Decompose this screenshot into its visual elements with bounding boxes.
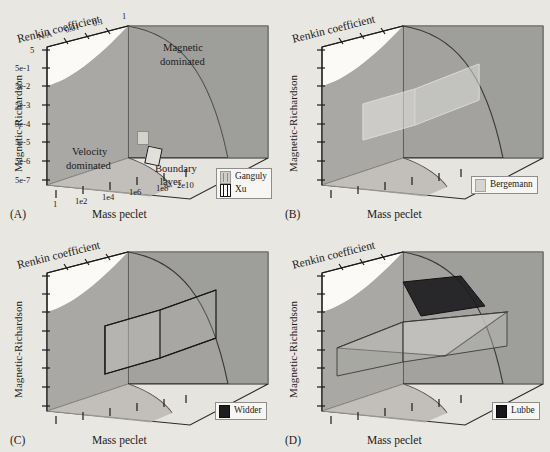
panel-a-x-axis-title: Mass peclet xyxy=(92,209,147,221)
panel-d-y-axis-title: Magnetic-Richardson xyxy=(288,301,299,398)
panel-a-annotation-magnetic-line2: dominated xyxy=(160,57,205,68)
panel-a-y-tick-4: 5e-4 xyxy=(15,120,30,129)
panel-a-annotation-magnetic-line1: Magnetic xyxy=(163,43,203,54)
panel-a-annotation-velocity-line1: Velocity xyxy=(72,147,107,158)
panel-d: Magnetic-Richardson Mass peclet Renkin c… xyxy=(275,226,550,452)
panel-a-y-tick-7: 5e-7 xyxy=(15,176,30,185)
legend-label-widder: Widder xyxy=(234,406,262,415)
panel-c-y-axis-title: Magnetic-Richardson xyxy=(13,301,24,398)
panel-a-y-tick-0: 5 xyxy=(30,46,34,55)
panel-b-letter: (B) xyxy=(285,209,300,221)
panel-b-y-axis-title: Magnetic-Richardson xyxy=(288,75,299,172)
legend-item-widder[interactable]: Widder xyxy=(219,405,262,417)
widder-swatch-icon xyxy=(219,405,230,418)
panel-a-x-tick-2: 1e4 xyxy=(102,193,114,202)
panel-a-annotation-boundary-line2: layer xyxy=(160,177,181,188)
legend-item-bergemann[interactable]: Bergemann xyxy=(475,179,533,191)
panel-a-y-tick-6: 5e-6 xyxy=(15,157,30,166)
marker-ganguly[interactable] xyxy=(137,131,149,145)
xu-swatch-icon xyxy=(220,184,231,197)
panel-b-legend: Bergemann xyxy=(471,176,538,194)
legend-item-ganguly[interactable]: Ganguly xyxy=(220,171,267,183)
panel-a-x-tick-3: 1e6 xyxy=(129,188,141,197)
panel-a-annotation-boundary-line1: Boundary xyxy=(155,164,197,175)
panel-a-y-tick-2: 5e-2 xyxy=(15,82,30,91)
lubbe-swatch-icon xyxy=(496,405,507,418)
panel-a-y-tick-1: 5e-1 xyxy=(15,64,30,73)
legend-label-lubbe: Lubbe xyxy=(511,406,535,415)
panel-c-letter: (C) xyxy=(10,435,25,447)
panel-a-letter: (A) xyxy=(10,209,26,221)
legend-item-xu[interactable]: Xu xyxy=(220,184,267,196)
panel-c-x-axis-title: Mass peclet xyxy=(92,435,147,447)
panel-a-z-tick-3: 1 xyxy=(122,13,126,21)
panel-a-x-tick-0: 1 xyxy=(53,200,57,209)
legend-item-lubbe[interactable]: Lubbe xyxy=(496,405,535,417)
panel-a-legend: Ganguly Xu xyxy=(216,168,272,199)
panel-b: Magnetic-Richardson Mass peclet Renkin c… xyxy=(275,0,550,226)
figure-root: Magnetic-Richardson Mass peclet Renkin c… xyxy=(0,0,550,452)
panel-a-annotation-velocity-line2: dominated xyxy=(66,161,111,172)
panel-a: Magnetic-Richardson Mass peclet Renkin c… xyxy=(0,0,275,226)
panel-a-y-tick-5: 5e-5 xyxy=(15,138,30,147)
ganguly-swatch-icon xyxy=(220,171,231,184)
panel-d-x-axis-title: Mass peclet xyxy=(367,435,422,447)
panel-c-legend: Widder xyxy=(215,402,267,420)
panel-c: Magnetic-Richardson Mass peclet Renkin c… xyxy=(0,226,275,452)
panel-b-x-axis-title: Mass peclet xyxy=(367,209,422,221)
bergemann-swatch-icon xyxy=(475,179,486,192)
panel-a-x-tick-1: 1e2 xyxy=(75,197,87,206)
panel-d-letter: (D) xyxy=(285,435,301,447)
panel-d-legend: Lubbe xyxy=(492,402,540,420)
legend-label-xu: Xu xyxy=(235,185,246,194)
panel-a-y-tick-3: 5e-3 xyxy=(15,101,30,110)
legend-label-bergemann: Bergemann xyxy=(490,180,533,189)
legend-label-ganguly: Ganguly xyxy=(235,172,267,181)
